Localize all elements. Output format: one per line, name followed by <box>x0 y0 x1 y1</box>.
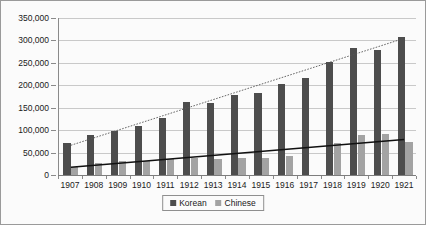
x-tick-mark <box>225 176 226 179</box>
year-group-1910 <box>135 18 150 175</box>
x-tick-mark <box>82 176 83 179</box>
year-group-1909 <box>111 18 126 175</box>
y-tick-label: 200,000 <box>18 80 49 90</box>
y-tick-mark <box>51 18 56 19</box>
bar-chinese-1910 <box>143 161 150 175</box>
x-tick-label-1919: 1919 <box>347 180 366 190</box>
y-tick-mark <box>51 175 56 176</box>
legend-swatch-chinese <box>216 200 222 206</box>
x-tick-mark <box>249 176 250 179</box>
y-tick-label: 0 <box>44 170 49 180</box>
x-tick-label-1907: 1907 <box>60 180 79 190</box>
y-tick-label: 150,000 <box>18 103 49 113</box>
x-tick-mark <box>130 176 131 179</box>
bar-chinese-1918 <box>334 143 341 175</box>
y-tick-mark <box>51 108 56 109</box>
chart-legend: KoreanChinese <box>162 195 264 211</box>
x-tick-label-1921: 1921 <box>395 180 414 190</box>
legend-entry-korean: Korean <box>170 198 206 208</box>
bar-chinese-1913 <box>214 159 221 175</box>
bar-chinese-1916 <box>286 156 293 175</box>
bar-chart-figure: 050,000100,000150,000200,000250,000300,0… <box>0 0 426 225</box>
bar-korean-1914 <box>231 95 238 175</box>
x-tick-mark <box>177 176 178 179</box>
year-group-1914 <box>231 18 246 175</box>
x-tick-label-1912: 1912 <box>180 180 199 190</box>
bar-chinese-1908 <box>95 163 102 175</box>
y-axis: 050,000100,000150,000200,000250,000300,0… <box>1 1 58 176</box>
x-tick-mark <box>201 176 202 179</box>
bar-korean-1920 <box>374 50 381 175</box>
x-tick-mark <box>58 176 59 179</box>
y-tick-mark <box>51 130 56 131</box>
bar-chinese-1919 <box>358 135 365 175</box>
x-tick-mark <box>321 176 322 179</box>
bar-chinese-1911 <box>167 159 174 175</box>
year-group-1911 <box>159 18 174 175</box>
bars-layer <box>59 18 416 175</box>
bar-chinese-1909 <box>119 161 126 175</box>
x-tick-mark <box>392 176 393 179</box>
year-group-1912 <box>183 18 198 175</box>
bar-korean-1915 <box>254 93 261 175</box>
x-tick-mark <box>297 176 298 179</box>
year-group-1917 <box>302 18 317 175</box>
bar-korean-1911 <box>159 118 166 175</box>
y-tick-label: 350,000 <box>18 13 49 23</box>
year-group-1915 <box>254 18 269 175</box>
y-tick-label: 100,000 <box>18 125 49 135</box>
x-tick-mark <box>106 176 107 179</box>
year-group-1921 <box>398 18 413 175</box>
x-tick-label-1918: 1918 <box>323 180 342 190</box>
bar-chinese-1914 <box>238 158 245 175</box>
legend-label-chinese: Chinese <box>225 198 256 208</box>
y-tick-mark <box>51 153 56 154</box>
bar-korean-1912 <box>183 102 190 175</box>
bar-chinese-1907 <box>71 167 78 175</box>
x-tick-label-1917: 1917 <box>299 180 318 190</box>
y-tick-mark <box>51 40 56 41</box>
x-tick-label-1909: 1909 <box>108 180 127 190</box>
bar-chinese-1912 <box>191 158 198 175</box>
x-tick-mark <box>368 176 369 179</box>
x-tick-label-1911: 1911 <box>156 180 174 190</box>
x-tick-label-1913: 1913 <box>204 180 223 190</box>
bar-chinese-1920 <box>382 134 389 175</box>
legend-label-korean: Korean <box>179 198 206 208</box>
legend-entry-chinese: Chinese <box>216 198 256 208</box>
y-tick-label: 250,000 <box>18 58 49 68</box>
year-group-1920 <box>374 18 389 175</box>
y-tick-label: 300,000 <box>18 35 49 45</box>
year-group-1907 <box>63 18 78 175</box>
year-group-1913 <box>207 18 222 175</box>
bar-chinese-1915 <box>262 158 269 175</box>
bar-korean-1917 <box>302 78 309 175</box>
year-group-1919 <box>350 18 365 175</box>
year-group-1918 <box>326 18 341 175</box>
y-tick-mark <box>51 85 56 86</box>
x-tick-label-1915: 1915 <box>251 180 270 190</box>
x-tick-label-1920: 1920 <box>371 180 390 190</box>
bar-korean-1910 <box>135 126 142 175</box>
y-tick-label: 50,000 <box>23 148 49 158</box>
bar-korean-1916 <box>278 84 285 175</box>
y-tick-mark <box>51 63 56 64</box>
bar-korean-1907 <box>63 143 70 175</box>
year-group-1908 <box>87 18 102 175</box>
bar-korean-1921 <box>398 37 405 175</box>
x-tick-label-1916: 1916 <box>275 180 294 190</box>
x-tick-mark <box>344 176 345 179</box>
x-axis: 1907190819091910191119121913191419151916… <box>58 175 416 193</box>
bar-korean-1909 <box>111 131 118 175</box>
bar-korean-1908 <box>87 135 94 175</box>
year-group-1916 <box>278 18 293 175</box>
x-tick-label-1908: 1908 <box>84 180 103 190</box>
bar-chinese-1921 <box>405 142 412 175</box>
plot-area <box>58 18 416 175</box>
x-tick-mark <box>416 176 417 179</box>
x-tick-mark <box>273 176 274 179</box>
x-tick-label-1910: 1910 <box>132 180 151 190</box>
bar-korean-1918 <box>326 62 333 175</box>
bar-korean-1919 <box>350 48 357 175</box>
bar-korean-1913 <box>207 103 214 175</box>
